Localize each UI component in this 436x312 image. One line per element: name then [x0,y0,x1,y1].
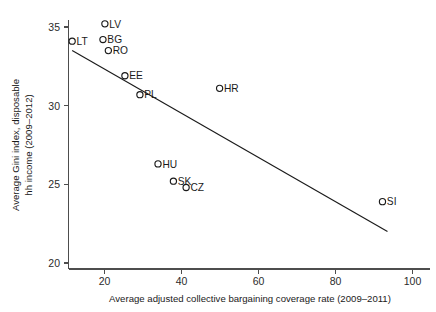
point-label-cz: CZ [191,182,205,193]
x-axis-title: Average adjusted collective bargaining c… [109,293,391,304]
y-axis-title-line2: hh income (2009–2012) [23,94,34,195]
y-tick-label-25: 25 [48,178,60,190]
x-tick-label-40: 40 [176,275,188,287]
chart-canvas: 35 30 25 20 20 40 60 80 100 Average adju… [0,0,436,312]
point-label-pl: PL [144,89,157,100]
point-label-lt: LT [77,36,88,47]
point-label-lv: LV [109,19,121,30]
y-axis-title-line1: Average Gini index, disposable [10,79,21,211]
chart-background [0,0,436,312]
point-label-bg: BG [107,34,122,45]
point-label-ro: RO [113,45,128,56]
x-tick-label-80: 80 [330,275,342,287]
point-label-hu: HU [162,159,177,170]
point-label-hr: HR [224,83,239,94]
y-tick-label-35: 35 [48,21,60,33]
x-tick-label-20: 20 [99,275,111,287]
scatter-plot-figure: 35 30 25 20 20 40 60 80 100 Average adju… [0,0,436,312]
y-tick-label-30: 30 [48,100,60,112]
point-label-ee: EE [129,70,143,81]
point-label-si: SI [387,196,397,207]
x-tick-label-60: 60 [253,275,265,287]
x-tick-label-100: 100 [404,275,422,287]
y-tick-label-20: 20 [48,257,60,269]
